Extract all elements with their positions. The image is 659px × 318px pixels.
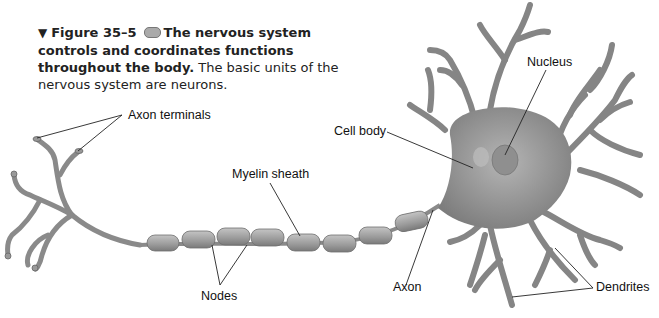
label-cell-body: Cell body <box>334 124 386 138</box>
label-axon: Axon <box>393 280 422 294</box>
nucleus <box>492 145 518 175</box>
label-axon-terminals: Axon terminals <box>128 108 211 122</box>
label-dendrites: Dendrites <box>596 280 650 294</box>
label-nucleus: Nucleus <box>527 55 572 69</box>
label-myelin-sheath: Myelin sheath <box>232 167 309 181</box>
axon-terminals <box>8 140 140 269</box>
label-nodes: Nodes <box>201 289 237 303</box>
neuron-diagram <box>0 0 659 318</box>
